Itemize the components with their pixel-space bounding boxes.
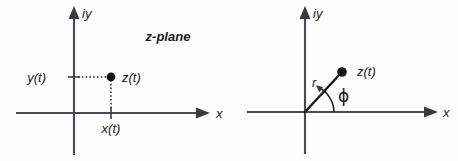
polar-point-label: z(t) <box>356 64 376 79</box>
real-component-label: x(t) <box>101 121 121 136</box>
polar-x-axis-arrowhead <box>424 107 438 118</box>
cartesian-panel: z-plane x iy z(t) y(t) x(t) <box>16 6 223 155</box>
cartesian-point-label: z(t) <box>121 70 141 85</box>
polar-x-axis-label: x <box>442 105 450 120</box>
z-plane-label: z-plane <box>145 29 191 44</box>
modulus-vector <box>305 73 341 112</box>
argument-arc <box>319 88 334 113</box>
cartesian-y-axis-arrowhead <box>69 6 80 19</box>
cartesian-y-axis-label: iy <box>82 6 93 21</box>
modulus-label: r <box>312 75 317 90</box>
polar-y-axis-label: iy <box>313 6 324 21</box>
imag-component-label: y(t) <box>26 70 46 85</box>
argument-label: ϕ <box>338 86 349 106</box>
figure-canvas: z-plane x iy z(t) y(t) x(t) iy x <box>0 0 458 161</box>
cartesian-x-axis-label: x <box>215 106 223 121</box>
polar-panel: iy x z(t) r ϕ <box>247 6 450 154</box>
polar-point-marker <box>337 67 347 77</box>
polar-y-axis-arrowhead <box>300 6 311 19</box>
cartesian-x-axis-arrowhead <box>196 108 210 119</box>
complex-plane-figure: z-plane x iy z(t) y(t) x(t) iy x <box>0 0 458 161</box>
cartesian-point-marker <box>107 73 116 82</box>
